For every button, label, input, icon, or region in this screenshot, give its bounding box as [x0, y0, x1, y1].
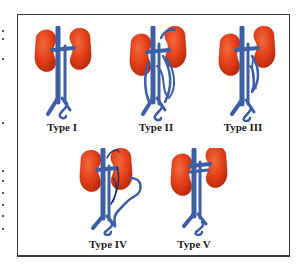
label-type-3: Type III [224, 121, 263, 133]
margin-mark [2, 204, 4, 206]
diagram-type-2 [127, 26, 189, 122]
diagram-type-3 [216, 26, 278, 122]
margin-mark [2, 180, 4, 182]
margin-mark [2, 192, 4, 194]
margin-mark [2, 58, 4, 60]
left-margin-text-fragments [0, 0, 12, 270]
margin-mark [2, 30, 4, 32]
label-type-1: Type I [47, 121, 77, 133]
kidney-left-icon [130, 34, 151, 76]
diagram-type-4 [77, 148, 147, 236]
margin-mark [2, 215, 4, 217]
margin-mark [2, 38, 4, 40]
diagram-type-1 [32, 26, 94, 122]
kidney-left-icon [219, 34, 240, 76]
label-type-4: Type IV [89, 238, 127, 250]
label-type-2: Type II [139, 121, 173, 133]
margin-mark [2, 170, 4, 172]
margin-mark [2, 228, 4, 230]
margin-mark [2, 122, 4, 124]
diagram-type-5 [168, 148, 230, 236]
label-type-5: Type V [177, 238, 211, 250]
kidney-right-icon [206, 148, 227, 188]
kidney-left-icon [171, 154, 192, 196]
